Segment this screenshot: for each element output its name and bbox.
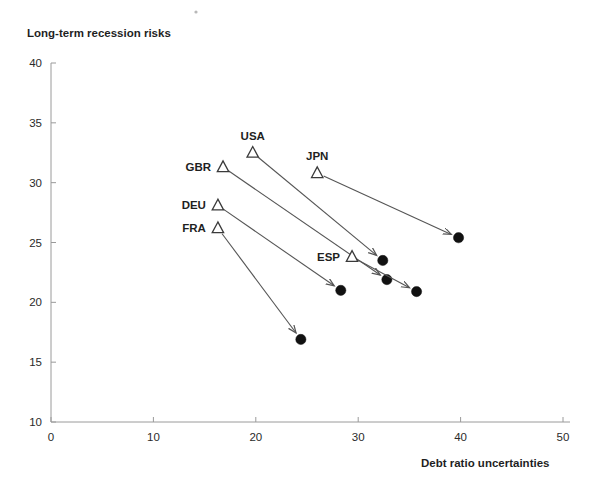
x-tick-label: 30	[352, 431, 365, 443]
y-tick-label: 10	[29, 416, 42, 428]
axis-group	[51, 63, 570, 422]
end-marker-dot	[453, 233, 463, 243]
series-jpn: JPN	[306, 150, 464, 243]
scatter-plot: 10152025303540 01020304050 GBRUSAJPNDEUF…	[0, 0, 599, 477]
start-marker-triangle	[212, 222, 223, 233]
shift-arrow	[324, 176, 452, 234]
y-tick-label: 20	[29, 296, 42, 308]
end-marker-dot	[378, 255, 388, 265]
y-tick-label: 15	[29, 356, 42, 368]
start-marker-triangle	[212, 199, 223, 210]
series-fra: FRA	[182, 222, 306, 345]
shift-arrow	[222, 234, 296, 333]
x-tick-label: 50	[557, 431, 570, 443]
y-axis-title: Long-term recession risks	[27, 27, 171, 39]
start-marker-triangle	[217, 161, 228, 172]
shift-arrow	[224, 209, 335, 285]
start-marker-triangle	[247, 147, 258, 158]
y-tick-label: 35	[29, 117, 42, 129]
series-label-esp: ESP	[317, 251, 340, 263]
x-axis-title: Debt ratio uncertainties	[421, 457, 549, 469]
x-tick-label: 20	[249, 431, 262, 443]
y-tick-label: 30	[29, 177, 42, 189]
end-marker-dot	[296, 334, 306, 344]
series-label-usa: USA	[241, 130, 265, 142]
y-tick-label: 40	[29, 57, 42, 69]
start-marker-triangle	[312, 167, 323, 178]
scan-speck	[194, 10, 197, 13]
x-axis-ticks: 01020304050	[48, 417, 570, 443]
series-label-gbr: GBR	[185, 161, 211, 173]
y-axis-ticks: 10152025303540	[29, 57, 56, 428]
shift-arrow	[229, 171, 380, 275]
y-tick-label: 25	[29, 237, 42, 249]
x-tick-label: 10	[147, 431, 160, 443]
end-marker-dot	[411, 286, 421, 296]
data-series-layer: GBRUSAJPNDEUFRAESP	[182, 130, 464, 345]
series-esp: ESP	[317, 251, 422, 297]
start-marker-triangle	[346, 251, 357, 262]
x-tick-label: 40	[454, 431, 467, 443]
series-label-deu: DEU	[182, 199, 206, 211]
series-label-fra: FRA	[182, 222, 206, 234]
series-deu: DEU	[182, 199, 346, 295]
series-gbr: GBR	[185, 161, 392, 285]
end-marker-dot	[336, 285, 346, 295]
x-tick-label: 0	[48, 431, 54, 443]
series-label-jpn: JPN	[306, 150, 328, 162]
chart-container: 10152025303540 01020304050 GBRUSAJPNDEUF…	[0, 0, 599, 477]
